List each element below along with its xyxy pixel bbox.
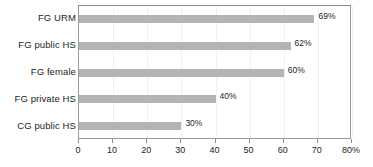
bar[interactable] [79, 15, 314, 23]
x-tick-label: 50 [244, 145, 254, 156]
bar[interactable] [79, 122, 181, 130]
category-label: CG public HS [0, 121, 76, 131]
bar-value-label: 69% [314, 11, 335, 21]
category-label: FG private HS [0, 94, 76, 104]
category-label: FG public HS [0, 40, 76, 50]
bar-value-label: 60% [284, 65, 305, 75]
gridline [352, 6, 353, 138]
bar-row: 69% [79, 6, 350, 33]
x-tick-mark [283, 139, 284, 143]
x-axis: 01020304050607080% [78, 139, 351, 167]
x-tick-label: 60 [278, 145, 288, 156]
category-axis: FG URMFG public HSFG femaleFG private HS… [0, 5, 76, 139]
x-tick-label: 0 [75, 145, 80, 156]
bar-chart: FG URMFG public HSFG femaleFG private HS… [0, 0, 373, 167]
bar-row: 60% [79, 60, 350, 87]
x-tick-label: 30 [175, 145, 185, 156]
x-tick-mark [180, 139, 181, 143]
x-tick-mark [78, 139, 79, 143]
bar[interactable] [79, 42, 291, 50]
x-tick-label: 40 [209, 145, 219, 156]
plot-area: 69%62%60%40%30% [78, 5, 351, 139]
x-tick-mark [351, 139, 352, 143]
bar[interactable] [79, 69, 284, 77]
bar[interactable] [79, 95, 216, 103]
bar-value-label: 62% [291, 38, 312, 48]
bar-value-label: 30% [181, 118, 202, 128]
x-tick-label: 80% [342, 145, 360, 156]
x-tick-label: 70 [312, 145, 322, 156]
bars-layer: 69%62%60%40%30% [79, 6, 350, 138]
x-tick-label: 10 [107, 145, 117, 156]
bar-value-label: 40% [216, 91, 237, 101]
x-tick-mark [249, 139, 250, 143]
x-tick-label: 20 [141, 145, 151, 156]
x-tick-mark [317, 139, 318, 143]
bar-row: 30% [79, 113, 350, 140]
x-tick-mark [146, 139, 147, 143]
x-tick-mark [112, 139, 113, 143]
category-label: FG URM [0, 13, 76, 23]
bar-row: 62% [79, 33, 350, 60]
bar-row: 40% [79, 86, 350, 113]
x-tick-mark [215, 139, 216, 143]
category-label: FG female [0, 67, 76, 77]
